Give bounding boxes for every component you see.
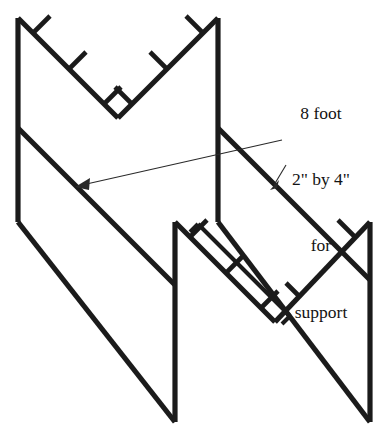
upper-long-rail bbox=[18, 128, 175, 285]
front-left-cleats bbox=[33, 16, 121, 104]
lower-long-rail bbox=[18, 222, 175, 422]
cleat-fl-2 bbox=[69, 52, 86, 69]
front-v-frame bbox=[18, 16, 218, 222]
cleat-fr-3 bbox=[115, 87, 132, 104]
annotation-line-4: support bbox=[255, 301, 387, 323]
diagram-figure: 8 foot 2" by 4" for support bbox=[0, 0, 390, 436]
support-annotation-text: 8 foot 2" by 4" for support bbox=[255, 58, 387, 367]
annotation-line-1: 8 foot bbox=[255, 102, 387, 124]
cleat-fr-2 bbox=[150, 52, 167, 69]
annotation-line-3: for bbox=[255, 234, 387, 256]
cleat-fr-1 bbox=[186, 16, 203, 33]
cleat-fl-1 bbox=[33, 16, 50, 33]
annotation-line-2: 2" by 4" bbox=[255, 168, 387, 190]
front-right-cleats bbox=[115, 16, 203, 104]
